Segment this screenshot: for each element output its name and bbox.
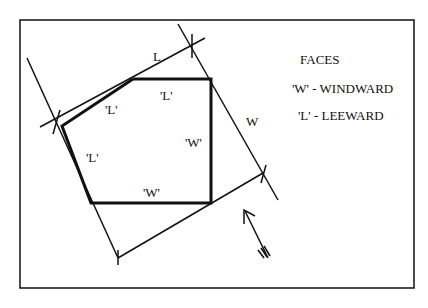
width-label: W: [246, 114, 259, 129]
legend-item-leeward: 'L' - LEEWARD: [298, 108, 384, 124]
length-dimension-line: [40, 38, 205, 127]
face-label-right-vertical: 'W': [185, 135, 202, 150]
legend-title: FACES: [300, 52, 340, 68]
face-label-top-diagonal: 'L': [105, 102, 118, 117]
bottom-dimension-line: [118, 173, 263, 258]
face-label-top-horizontal: 'L': [160, 88, 173, 103]
length-label: L: [153, 49, 161, 64]
corner-tick-left: [53, 110, 60, 134]
face-label-bottom-horizontal: 'W': [143, 185, 160, 200]
diagram-canvas: L W 'L' 'L' 'L' 'W' 'W' FACES 'W' - WIND…: [0, 0, 428, 308]
wind-direction-arrow-icon: [244, 210, 270, 258]
legend-item-windward: 'W' - WINDWARD: [292, 81, 393, 97]
diagram-svg: L W 'L' 'L' 'L' 'W' 'W': [0, 0, 428, 308]
diagram-frame: [20, 20, 414, 288]
face-label-left-side: 'L': [86, 150, 99, 165]
